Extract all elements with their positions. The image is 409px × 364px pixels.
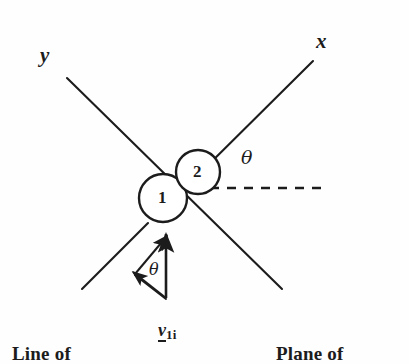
sphere-1-label: 1 <box>158 188 167 207</box>
theta-axis-label: θ <box>241 147 252 168</box>
plane-of-contact-caption-line1: Plane of <box>276 343 344 364</box>
theta-velocity-label: θ <box>149 261 159 279</box>
plane-of-contact-caption: Plane of Contact <box>276 300 344 364</box>
x-axis-label: x <box>316 30 327 54</box>
velocity-vector-label: v1i <box>140 300 177 363</box>
physics-diagram-figure: y x θ θ 1 2 v1i Line of Impact Plane of … <box>0 0 409 364</box>
line-of-impact-caption-line1: Line of <box>12 343 71 364</box>
velocity-symbol: v <box>158 320 166 342</box>
sphere-2-label: 2 <box>193 162 202 181</box>
line-of-impact-caption: Line of Impact <box>12 300 71 364</box>
velocity-subscript: 1i <box>166 327 177 342</box>
y-axis-label: y <box>40 44 49 68</box>
line-of-impact-line <box>82 223 148 289</box>
